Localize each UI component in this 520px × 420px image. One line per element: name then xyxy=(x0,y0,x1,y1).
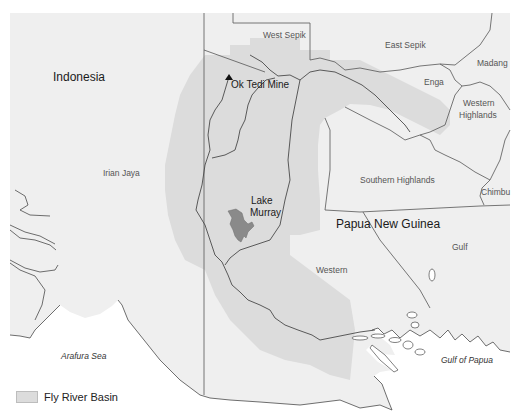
label-ok-tedi-mine: Ok Tedi Mine xyxy=(231,79,289,90)
label-lake-murray-2: Murray xyxy=(250,207,281,218)
label-gulf-of-papua: Gulf of Papua xyxy=(441,355,493,365)
label-western-highlands-1: Western xyxy=(463,98,495,108)
label-arafura-sea: Arafura Sea xyxy=(61,351,106,361)
label-west-sepik: West Sepik xyxy=(263,30,306,40)
label-lake-murray-1: Lake xyxy=(251,195,273,206)
label-gulf: Gulf xyxy=(452,242,468,252)
legend-label-fly-river-basin: Fly River Basin xyxy=(44,391,118,403)
label-enga: Enga xyxy=(424,77,444,87)
label-chimbu: Chimbu xyxy=(481,187,510,197)
label-western-highlands-2: Highlands xyxy=(459,110,497,120)
label-irian-jaya: Irian Jaya xyxy=(103,168,140,178)
label-papua-new-guinea: Papua New Guinea xyxy=(336,217,440,231)
legend: Fly River Basin xyxy=(16,391,118,403)
label-southern-highlands: Southern Highlands xyxy=(360,175,435,185)
label-indonesia: Indonesia xyxy=(53,70,105,84)
label-western: Western xyxy=(316,265,348,275)
legend-swatch-fly-river-basin xyxy=(16,391,38,403)
label-east-sepik: East Sepik xyxy=(385,40,426,50)
label-madang: Madang xyxy=(477,58,508,68)
